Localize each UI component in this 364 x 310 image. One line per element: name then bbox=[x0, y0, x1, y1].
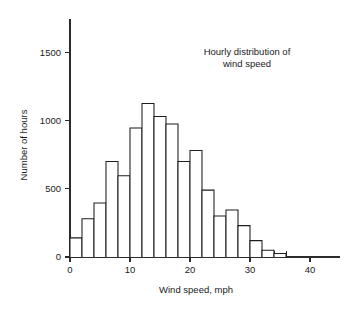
histogram-bar-22-24 bbox=[202, 190, 214, 257]
x-axis-title: Wind speed, mph bbox=[159, 284, 233, 295]
histogram-bar-2-4 bbox=[82, 219, 94, 257]
histogram-bar-28-30 bbox=[238, 226, 250, 257]
histogram-bar-26-28 bbox=[226, 210, 238, 257]
histogram-bar-30-32 bbox=[250, 241, 262, 257]
x-tick-label-10: 10 bbox=[125, 264, 136, 275]
y-tick-label-1000: 1000 bbox=[40, 115, 61, 126]
histogram-svg: 050010001500010203040Number of hoursWind… bbox=[0, 0, 364, 310]
histogram-bar-34-36 bbox=[274, 254, 286, 257]
histogram-bar-0-2 bbox=[70, 238, 82, 257]
y-tick-label-500: 500 bbox=[45, 183, 61, 194]
y-tick-label-1500: 1500 bbox=[40, 47, 61, 58]
histogram-bar-8-10 bbox=[118, 176, 130, 257]
histogram-bar-12-14 bbox=[142, 103, 154, 257]
x-tick-label-20: 20 bbox=[185, 264, 196, 275]
x-tick-label-40: 40 bbox=[305, 264, 316, 275]
histogram-bar-20-22 bbox=[190, 151, 202, 257]
plot-area: 050010001500010203040Number of hoursWind… bbox=[18, 19, 340, 295]
histogram-bar-16-18 bbox=[166, 124, 178, 257]
x-tick-label-30: 30 bbox=[245, 264, 256, 275]
histogram-bar-18-20 bbox=[178, 161, 190, 257]
histogram-bar-6-8 bbox=[106, 161, 118, 257]
x-tick-label-0: 0 bbox=[67, 264, 72, 275]
histogram-bar-32-34 bbox=[262, 250, 274, 257]
chart-figure: 050010001500010203040Number of hoursWind… bbox=[0, 0, 364, 310]
histogram-bar-14-16 bbox=[154, 116, 166, 257]
y-tick-label-0: 0 bbox=[56, 251, 61, 262]
histogram-bar-24-26 bbox=[214, 216, 226, 257]
y-axis-title: Number of hours bbox=[18, 109, 29, 180]
chart-title-line-2: wind speed bbox=[222, 58, 271, 69]
histogram-bar-10-12 bbox=[130, 128, 142, 257]
histogram-bar-4-6 bbox=[94, 203, 106, 257]
chart-title-line-1: Hourly distribution of bbox=[204, 46, 291, 57]
